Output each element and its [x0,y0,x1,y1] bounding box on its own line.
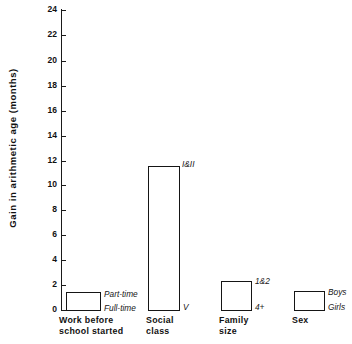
category-label-line2: school started [59,326,123,337]
bar-top-label-work-before-school-started: Part-time [104,290,138,298]
category-label-line2: class [146,326,174,337]
bar-sex [294,291,325,311]
y-axis-tick [61,260,66,261]
y-axis-tick-label: 10 [35,180,57,190]
y-axis-tick [61,235,66,236]
y-axis-tick [61,61,66,62]
y-axis-tick-value: 4 [37,255,57,264]
y-axis-title: Gain in arithmetic age (months) [2,0,22,320]
category-label-line1: Social [146,315,174,326]
y-axis-tick [61,35,66,36]
category-label-line1: Work before [59,315,123,326]
y-axis-tick-value: 24 [37,5,57,14]
y-axis-tick [61,210,66,211]
bar-work-before-school-started [66,292,101,311]
bar-top-label-family-size: 1&2 [255,277,270,285]
bar-family-size [221,281,252,311]
bar-top-label-sex: Boys [328,288,346,296]
y-axis-tick-value: 6 [37,230,57,239]
category-label-work-before-school-started: Work beforeschool started [59,315,123,337]
y-axis-line [61,9,62,311]
y-axis-tick-value: 16 [37,106,57,115]
y-axis-tick [61,86,66,87]
y-axis-tick-label: 8 [35,205,57,215]
bar-social-class [148,166,180,311]
y-axis-tick-value: 22 [37,30,57,39]
y-axis-tick [61,161,66,162]
y-axis-tick-value: 20 [37,56,57,65]
y-axis-tick-value: 0 [37,305,57,314]
category-label-family-size: Familysize [219,315,249,337]
y-axis-tick-label: 14 [35,131,57,141]
y-axis-tick [61,136,66,137]
bar-bottom-label-social-class: V [183,303,189,311]
y-axis-tick-value: 2 [37,280,57,289]
bar-bottom-label-sex: Girls [328,303,345,311]
y-axis-tick-value: 18 [37,81,57,90]
y-axis-tick-value: 10 [37,180,57,189]
bar-top-label-social-class: I&II [182,160,194,168]
y-axis-tick-label: 4 [35,255,57,265]
bar-chart-figure: Gain in arithmetic age (months) 02468101… [0,0,352,344]
y-axis-tick-label: 20 [35,56,57,66]
y-axis-tick [61,185,66,186]
category-label-line2: size [219,326,249,337]
category-label-social-class: Socialclass [146,315,174,337]
y-axis-tick [61,111,66,112]
y-axis-tick-value: 12 [37,156,57,165]
y-axis-tick-label: 0 [35,305,57,315]
y-axis-tick-label: 6 [35,230,57,240]
y-axis-tick-label: 18 [35,81,57,91]
category-label-line1: Sex [292,315,309,326]
bar-bottom-label-family-size: 4+ [255,303,264,311]
y-axis-tick-label: 16 [35,106,57,116]
y-axis-tick-label: 24 [35,5,57,15]
y-axis-tick-value: 8 [37,205,57,214]
bar-bottom-label-work-before-school-started: Full-time [104,304,136,312]
y-axis-tick-label: 12 [35,156,57,166]
category-label-line1: Family [219,315,249,326]
y-axis-tick [61,285,66,286]
y-axis-tick-value: 14 [37,131,57,140]
y-axis-tick-label: 22 [35,30,57,40]
y-axis-tick-label: 2 [35,280,57,290]
y-axis-tick [61,10,66,11]
category-label-sex: Sex [292,315,309,326]
